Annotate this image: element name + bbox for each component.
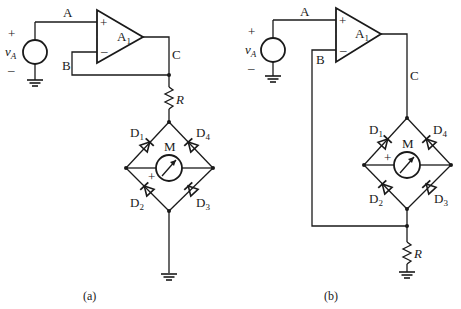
- source-minus: –: [7, 62, 15, 77]
- diode-label-d3: D3: [196, 195, 210, 212]
- caption-b: (b): [324, 289, 338, 303]
- node-label-c: C: [410, 68, 419, 83]
- source-label: vA: [5, 44, 17, 61]
- opamp-label: A1: [355, 26, 369, 43]
- source-plus: +: [248, 24, 255, 39]
- meter-label: M: [402, 136, 414, 151]
- resistor-icon: [165, 75, 173, 122]
- node-label-a: A: [63, 5, 73, 20]
- source-minus: –: [247, 60, 255, 75]
- ground-icon: [399, 272, 415, 278]
- opamp-label: A1: [117, 29, 131, 46]
- meter-plus: +: [148, 169, 155, 184]
- source-plus: +: [8, 26, 15, 41]
- diode-label-d2: D2: [369, 191, 383, 208]
- ground-icon: [161, 274, 177, 280]
- diode-label-d1: D1: [369, 122, 383, 139]
- node-label-b: B: [316, 52, 325, 67]
- diode-label-d4: D4: [433, 122, 447, 139]
- opamp-plus: +: [339, 13, 346, 28]
- opamp-minus: –: [339, 42, 347, 57]
- circuit-figure: + vA – A + – A1 C B R: [0, 0, 461, 309]
- resistor-label: R: [175, 92, 184, 107]
- resistor-icon: [403, 242, 411, 272]
- meter-label: M: [164, 139, 176, 154]
- voltage-source-icon: [23, 22, 47, 86]
- voltage-source-icon: [261, 20, 285, 82]
- meter-icon: [156, 155, 182, 181]
- meter-plus: +: [384, 150, 391, 165]
- opamp-minus: –: [100, 43, 108, 58]
- source-label: vA: [245, 42, 257, 59]
- opamp-plus: +: [100, 15, 107, 30]
- panel-a: + vA – A + – A1 C B R: [5, 5, 215, 303]
- diode-label-d1: D1: [130, 125, 144, 142]
- node-label-c: C: [172, 47, 181, 62]
- node-label-b: B: [62, 58, 71, 73]
- diode-label-d2: D2: [130, 195, 144, 212]
- node-label-a: A: [300, 4, 310, 19]
- resistor-label: R: [413, 246, 422, 261]
- diode-label-d4: D4: [196, 125, 210, 142]
- diode-label-d3: D3: [434, 191, 448, 208]
- panel-b: + vA – A + – A1 C B: [245, 4, 453, 303]
- meter-icon: [394, 152, 420, 178]
- caption-a: (a): [83, 289, 96, 303]
